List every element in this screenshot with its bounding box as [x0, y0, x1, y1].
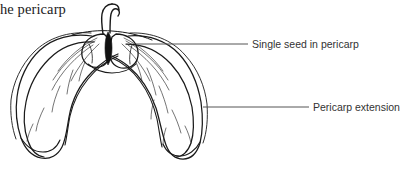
- seed-right-crease: [130, 45, 132, 64]
- annotation-label-single-seed: Single seed in pericarp: [252, 38, 359, 50]
- stalk-right-edge: [110, 9, 119, 33]
- right-pericarp-wing-outer: [112, 36, 202, 159]
- figure-root: he pericarp: [0, 0, 418, 170]
- stalk: [102, 4, 120, 34]
- fruit-illustration: [0, 0, 418, 170]
- annotation-leader-lines: [136, 44, 309, 107]
- left-pericarp-wing-outer: [16, 35, 118, 158]
- annotation-label-pericarp-extension: Pericarp extension: [313, 101, 400, 113]
- right-pericarp-wing-edge: [130, 33, 207, 143]
